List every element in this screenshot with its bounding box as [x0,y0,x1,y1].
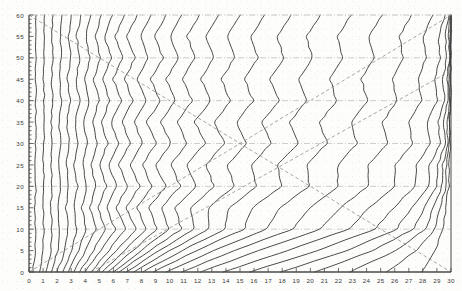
x-tick-label: 26 [391,277,399,284]
x-tick-label: 22 [335,277,343,284]
y-tick-label: 5 [20,247,24,254]
x-tick-label: 6 [112,277,116,284]
x-tick-label: 15 [236,277,244,284]
y-tick-label: 25 [16,162,24,169]
x-tick-label: 1 [41,277,45,284]
x-tick-label: 7 [126,277,130,284]
x-tick-label: 25 [377,277,385,284]
x-tick-label: 11 [180,277,187,284]
x-tick-label: 28 [419,277,427,284]
x-tick-label: 13 [208,277,216,284]
x-tick-label: 18 [278,277,286,284]
y-tick-label: 15 [16,204,24,211]
x-tick-label: 3 [69,277,73,284]
x-tick-label: 20 [307,277,315,284]
x-tick-label: 0 [27,277,31,284]
y-tick-label: 40 [16,97,24,104]
y-tick-label: 45 [16,76,24,83]
x-tick-label: 12 [194,277,202,284]
x-tick-label: 10 [166,277,174,284]
x-tick-label: 8 [140,277,144,284]
y-tick-label: 50 [16,54,24,61]
x-tick-label: 2 [55,277,59,284]
y-tick-label: 35 [16,119,24,126]
x-tick-label: 14 [222,277,230,284]
y-tick-label: 60 [16,12,24,19]
x-tick-label: 30 [447,277,455,284]
x-tick-label: 24 [363,277,371,284]
x-tick-label: 21 [321,277,329,284]
y-tick-label: 0 [20,269,24,276]
x-tick-label: 19 [293,277,301,284]
chart-figure: 0510152025303540455055600123456789101112… [0,0,462,291]
x-tick-label: 27 [405,277,413,284]
y-tick-label: 55 [16,33,24,40]
x-tick-label: 23 [349,277,357,284]
y-tick-label: 30 [16,140,24,147]
x-tick-label: 16 [250,277,258,284]
x-tick-label: 17 [264,277,272,284]
x-tick-label: 9 [154,277,158,284]
chart-plot-area: 0510152025303540455055600123456789101112… [0,0,462,291]
x-tick-label: 5 [97,277,101,284]
y-tick-label: 20 [16,183,24,190]
y-tick-label: 10 [16,226,24,233]
x-tick-label: 4 [83,277,87,284]
x-tick-label: 29 [433,277,441,284]
